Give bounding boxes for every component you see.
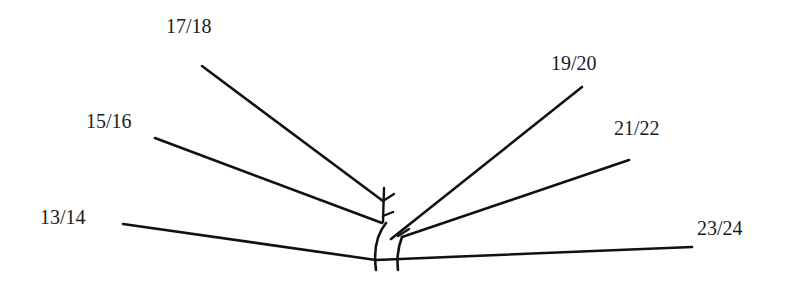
left-arc <box>375 223 386 270</box>
branch-15-16 <box>155 138 382 223</box>
tick-lower-left <box>383 212 393 216</box>
label-15-16: 15/16 <box>86 111 132 131</box>
branch-13-14 <box>123 224 376 260</box>
label-23-24: 23/24 <box>697 218 743 238</box>
branch-17-18 <box>202 66 383 201</box>
label-13-14: 13/14 <box>40 207 86 227</box>
label-21-22: 21/22 <box>614 118 660 138</box>
branch-19-20 <box>391 87 582 239</box>
label-19-20: 19/20 <box>551 53 597 73</box>
branch-23-24 <box>376 247 692 260</box>
right-arc <box>398 237 403 270</box>
branch-21-22 <box>402 160 629 237</box>
junction-arcs <box>375 223 402 270</box>
label-17-18: 17/18 <box>166 16 212 36</box>
branching-diagram <box>0 0 796 290</box>
